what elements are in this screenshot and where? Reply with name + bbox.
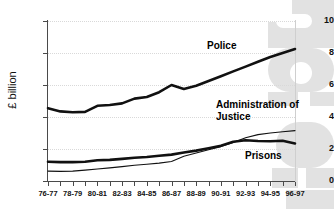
series-label-police: Police xyxy=(207,40,236,52)
chart-container: 0246810 £ billion 76-7778-7980-8182-8384… xyxy=(0,0,334,209)
series-label-administration-of-justice: Administration of Justice xyxy=(216,99,334,123)
series-label-prisons: Prisons xyxy=(245,150,282,162)
